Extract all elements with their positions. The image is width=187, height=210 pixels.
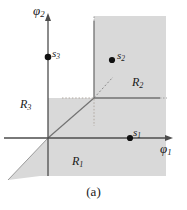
region-label-r2: R2 (132, 76, 143, 90)
region-label-r1: R1 (72, 155, 83, 169)
point-label-s3: s3 (52, 48, 60, 60)
point-s3 (45, 54, 52, 61)
point-label-s2: s2 (117, 50, 125, 62)
y-axis-arrowhead (45, 13, 51, 21)
region-label-r3: R3 (20, 98, 31, 112)
x-axis-label: φ1 (160, 142, 172, 157)
point-s2 (109, 57, 115, 63)
figure-caption: (a) (0, 184, 187, 200)
y-axis-label: φ2 (33, 4, 45, 19)
shaded-region-lower-rect (48, 98, 166, 176)
point-label-s1: s1 (133, 127, 141, 139)
figure-container: φ2 φ1 s3 s2 s1 R1 R2 R3 (a) (0, 0, 187, 210)
